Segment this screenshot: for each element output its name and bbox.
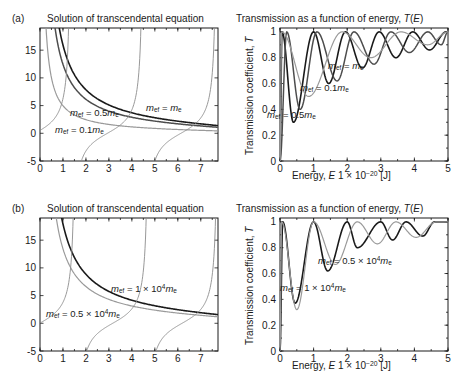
svg-text:5: 5 <box>30 100 36 111</box>
svg-text:15: 15 <box>25 235 37 246</box>
svg-text:7: 7 <box>198 163 204 174</box>
panel-a-right: Transmission as a function of energy, T(… <box>232 0 464 190</box>
b-right-xlabel: Energy, E 1 × 10−20 [J] <box>292 360 391 371</box>
svg-text:-5: -5 <box>27 346 36 357</box>
b-right-label-05e4-me: mef = 0.5 × 104me <box>318 255 392 266</box>
panel-a-right-title: Transmission as a function of energy, T(… <box>236 13 423 24</box>
panel-a-left-title: Solution of transcendental equation <box>47 13 204 24</box>
chart-a-left: 01234567-5051015 <box>0 0 232 190</box>
svg-text:4: 4 <box>129 353 135 364</box>
svg-text:0.4: 0.4 <box>262 294 276 305</box>
panel-b-left-title: Solution of transcendental equation <box>47 203 204 214</box>
svg-text:10: 10 <box>25 72 37 83</box>
panel-b: (b) Solution of transcendental equation … <box>0 190 232 379</box>
svg-text:0: 0 <box>270 346 276 357</box>
svg-text:3: 3 <box>106 353 112 364</box>
b-left-label-05e4-me: mef = 0.5 × 104me <box>46 308 120 319</box>
svg-text:0: 0 <box>270 156 276 167</box>
a-left-label-half-me: mef = 0.5me <box>70 107 119 118</box>
svg-text:0.2: 0.2 <box>262 130 276 141</box>
svg-text:1: 1 <box>270 216 276 227</box>
svg-text:0.8: 0.8 <box>262 242 276 253</box>
a-right-xlabel: Energy, E 1 × 10−20 [J] <box>292 170 391 181</box>
chart-b-right: 01234500.20.40.60.81 <box>232 190 464 379</box>
svg-text:0: 0 <box>30 128 36 139</box>
b-right-ylabel: Transmission coefficient, T <box>244 227 255 345</box>
svg-text:5: 5 <box>30 290 36 301</box>
svg-text:0: 0 <box>277 353 283 364</box>
svg-text:0.6: 0.6 <box>262 78 276 89</box>
a-right-ylabel: Transmission coefficient, T <box>244 37 255 155</box>
a-left-label-tenth-me: mef = 0.1me <box>55 124 104 135</box>
svg-text:4: 4 <box>129 163 135 174</box>
svg-text:-5: -5 <box>27 156 36 167</box>
svg-text:1: 1 <box>60 353 66 364</box>
svg-text:10: 10 <box>25 262 37 273</box>
svg-text:15: 15 <box>25 45 37 56</box>
svg-text:0: 0 <box>30 318 36 329</box>
svg-text:5: 5 <box>152 353 158 364</box>
a-right-label-tenth-me: mef = 0.1me <box>300 82 349 93</box>
svg-text:5: 5 <box>445 163 451 174</box>
svg-text:0.2: 0.2 <box>262 320 276 331</box>
svg-text:4: 4 <box>412 353 418 364</box>
panel-b-right-title: Transmission as a function of energy, T(… <box>236 203 423 214</box>
svg-text:0: 0 <box>277 163 283 174</box>
panel-a: (a) Solution of transcendental equation … <box>0 0 232 190</box>
a-left-label-me: mef = me <box>146 102 182 113</box>
b-right-label-1e4-me: mef = 1 × 104me <box>280 282 346 293</box>
svg-text:5: 5 <box>152 163 158 174</box>
svg-text:0.6: 0.6 <box>262 268 276 279</box>
svg-text:3: 3 <box>106 163 112 174</box>
svg-text:0: 0 <box>37 163 43 174</box>
svg-text:0.8: 0.8 <box>262 52 276 63</box>
svg-text:5: 5 <box>445 353 451 364</box>
a-right-label-half-me: mef = 0.5me <box>267 109 316 120</box>
chart-a-right: 01234500.20.40.60.81 <box>232 0 464 190</box>
panel-a-tag: (a) <box>12 13 24 24</box>
svg-text:2: 2 <box>83 353 89 364</box>
figure-root: (a) Solution of transcendental equation … <box>0 0 464 379</box>
svg-text:7: 7 <box>198 353 204 364</box>
b-left-label-1e4-me: mef = 1 × 104me <box>111 283 177 294</box>
svg-text:4: 4 <box>412 163 418 174</box>
panel-b-tag: (b) <box>12 203 24 214</box>
svg-text:1: 1 <box>270 26 276 37</box>
svg-text:2: 2 <box>83 163 89 174</box>
svg-text:0: 0 <box>37 353 43 364</box>
panel-b-right: Transmission as a function of energy, T(… <box>232 190 464 379</box>
svg-text:6: 6 <box>175 353 181 364</box>
a-right-label-me: mef = me <box>328 60 364 71</box>
svg-text:1: 1 <box>60 163 66 174</box>
svg-text:6: 6 <box>175 163 181 174</box>
